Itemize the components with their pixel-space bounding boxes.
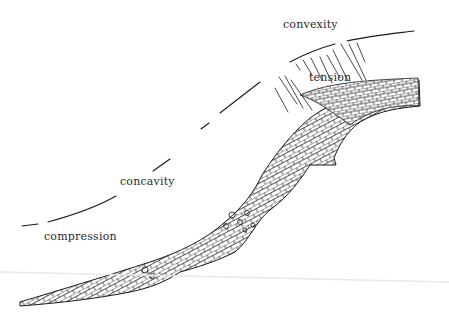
slope-diagram (0, 0, 449, 324)
scan-artifact (0, 272, 449, 282)
compression-label: compression (44, 230, 117, 243)
curve-line (22, 31, 414, 226)
convexity-label: convexity (283, 18, 338, 31)
concavity-label: concavity (120, 175, 175, 188)
tension-label: tension (309, 71, 351, 84)
